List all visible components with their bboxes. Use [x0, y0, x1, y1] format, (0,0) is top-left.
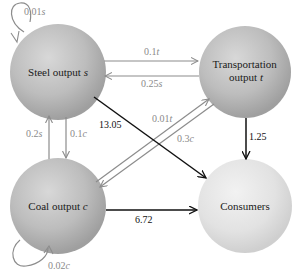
steel-to-coal-label: 0.1c: [70, 128, 88, 139]
transport-to-coal-label: 0.3c: [177, 133, 195, 144]
transport-to-consumers-label: 1.25: [249, 131, 267, 142]
steel-node-label: Steel output s: [28, 66, 88, 78]
steel-self-loop-arrowhead: [11, 31, 19, 42]
consumers-node-label: Consumers: [220, 200, 270, 212]
economy-flow-diagram: Steel output s Transportation output t C…: [0, 0, 296, 272]
coal-to-transport-label: 0.01t: [152, 113, 173, 124]
steel-to-transport-label: 0.1t: [144, 46, 160, 57]
transport-to-steel-label: 0.25s: [141, 78, 163, 89]
coal-node-label: Coal output c: [28, 200, 87, 212]
steel-self-label: 0.01s: [24, 6, 46, 17]
steel-to-consumers-label: 13.05: [99, 119, 122, 130]
coal-self-label: 0.02c: [48, 260, 71, 271]
coal-to-steel-label: 0.2s: [26, 128, 43, 139]
coal-to-consumers-label: 6.72: [135, 214, 153, 225]
